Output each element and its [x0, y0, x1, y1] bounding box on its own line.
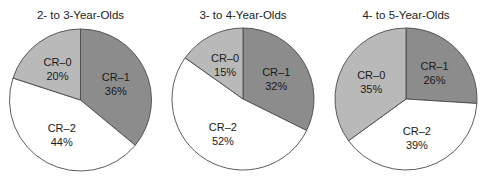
- pie-chart-2: 3- to 4-Year-OldsCR–132%CR–252%CR–015%: [172, 9, 314, 170]
- slice-percent-label: 15%: [214, 66, 236, 78]
- slice-category-label: CR–0: [357, 69, 385, 81]
- slice-category-label: CR–0: [43, 56, 71, 68]
- slice-percent-label: 52%: [212, 135, 234, 147]
- pie-title: 2- to 3-Year-Olds: [37, 9, 124, 21]
- slice-percent-label: 39%: [406, 139, 428, 151]
- pie-chart-3: 4- to 5-Year-OldsCR–126%CR–239%CR–035%: [335, 9, 477, 170]
- slice-percent-label: 20%: [46, 70, 68, 82]
- slice-category-label: CR–2: [48, 122, 76, 134]
- slice-category-label: CR–0: [211, 52, 239, 64]
- slice-category-label: CR–2: [403, 125, 431, 137]
- slice-percent-label: 44%: [51, 136, 73, 148]
- pie-title: 3- to 4-Year-Olds: [199, 9, 286, 21]
- slice-category-label: CR–1: [262, 66, 290, 78]
- slice-percent-label: 26%: [423, 74, 445, 86]
- slice-category-label: CR–1: [102, 71, 130, 83]
- pie-title: 4- to 5-Year-Olds: [362, 9, 449, 21]
- slice-percent-label: 36%: [105, 85, 127, 97]
- slice-category-label: CR–2: [209, 121, 237, 133]
- slice-category-label: CR–1: [420, 60, 448, 72]
- pie-charts: 2- to 3-Year-OldsCR–136%CR–244%CR–020%3-…: [0, 0, 487, 180]
- slice-percent-label: 32%: [265, 80, 287, 92]
- slice-percent-label: 35%: [360, 83, 382, 95]
- pie-chart-1: 2- to 3-Year-OldsCR–136%CR–244%CR–020%: [9, 9, 151, 171]
